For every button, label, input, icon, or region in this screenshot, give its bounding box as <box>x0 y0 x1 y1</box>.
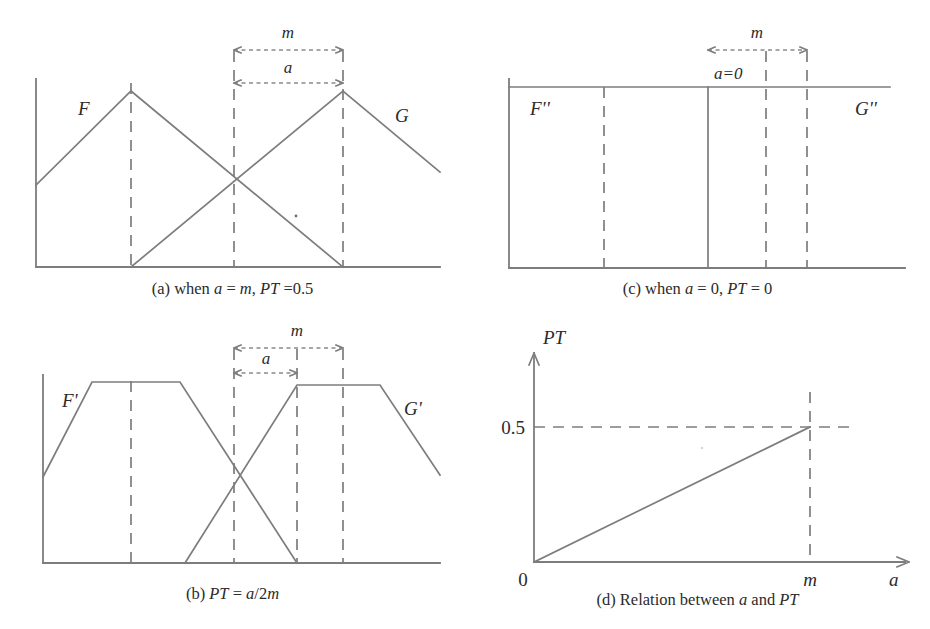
panel-a-scan-speck <box>295 215 298 218</box>
panel-b-curve-f-prime <box>43 382 297 563</box>
panel-b-span-m: m <box>234 321 343 351</box>
panel-d-x-axis-label: a <box>889 569 899 590</box>
panel-d-caption: (d) Relation between a and PT <box>465 590 930 610</box>
panel-a-label-g: G <box>395 105 409 126</box>
panel-d-tick-origin: 0 <box>518 569 528 590</box>
figure-root: m a F G (a) when a = m, PT =0.5 <box>0 0 930 629</box>
panel-b-span-m-label: m <box>291 321 303 340</box>
panel-d-y-axis-label: PT <box>542 327 567 348</box>
panel-d-tick-m: m <box>803 569 817 590</box>
panel-a-label-f: F <box>77 98 90 119</box>
panel-a-chart: m a F G <box>0 5 465 280</box>
panel-d-scan-speck <box>701 447 703 449</box>
panel-b-span-a-arrow-right <box>290 370 297 376</box>
panel-b-chart: m a F' G' <box>0 315 465 580</box>
panel-c-span-m: m <box>708 23 807 53</box>
panel-c-caption: (c) when a = 0, PT = 0 <box>465 279 930 299</box>
panel-a-span-a: a <box>234 58 343 86</box>
panel-c-span-a-label: a=0 <box>714 64 743 83</box>
panel-b-label-f-prime: F' <box>61 390 79 411</box>
panel-d-chart: PT a 0 0.5 m <box>465 320 930 590</box>
panel-c-label-g: G'' <box>855 98 878 119</box>
panel-d-line-pt <box>534 427 810 562</box>
panel-c-chart: m a=0 F'' G'' <box>465 5 930 280</box>
panel-a-span-m: m <box>234 23 343 53</box>
panel-a-curve-g <box>131 91 440 267</box>
cropped-header-text <box>0 0 930 4</box>
panel-b-label-g-prime: G' <box>404 398 423 419</box>
panel-c-label-f: F'' <box>529 98 551 119</box>
panel-a-caption: (a) when a = m, PT =0.5 <box>0 279 465 299</box>
panel-a-span-m-label: m <box>282 23 294 42</box>
panel-b-curve-g-prime <box>185 385 440 563</box>
panel-b-caption: (b) PT = a/2m <box>0 584 465 604</box>
panel-c-span-m-label: m <box>751 23 763 42</box>
panel-d-tick-half: 0.5 <box>501 417 525 438</box>
panel-b-span-a-label: a <box>262 349 271 368</box>
panel-a-span-a-label: a <box>284 58 293 77</box>
panel-b-span-a: a <box>234 349 297 376</box>
